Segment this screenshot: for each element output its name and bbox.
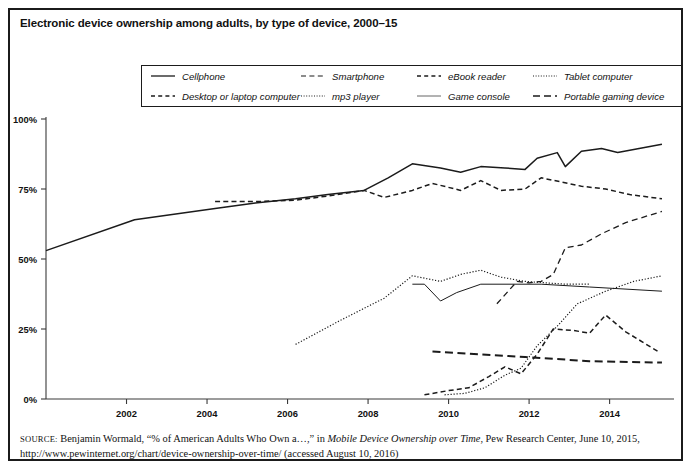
legend-label: Cellphone bbox=[182, 71, 225, 82]
legend-swatch-dash-med-icon bbox=[416, 71, 442, 81]
legend-row-2: Desktop or laptop computer mp3 player Ga… bbox=[142, 86, 681, 106]
legend-swatch-solid-icon bbox=[150, 71, 176, 81]
legend-label: Portable gaming device bbox=[564, 91, 664, 102]
legend-swatch-dash-med-icon bbox=[150, 91, 176, 101]
legend-item-tablet-computer: Tablet computer bbox=[532, 71, 632, 82]
legend-item-portable-gaming-device: Portable gaming device bbox=[532, 91, 664, 102]
legend-row-1: Cellphone Smartphone eBook reader Tablet… bbox=[142, 66, 681, 86]
source-url: http://www.pewinternet.org/chart/device-… bbox=[20, 448, 398, 459]
legend-label: Tablet computer bbox=[564, 71, 632, 82]
legend-swatch-thin-solid-icon bbox=[416, 91, 442, 101]
legend-item-smartphone: Smartphone bbox=[300, 71, 416, 82]
legend-label: mp3 player bbox=[332, 91, 379, 102]
figure-container: Electronic device ownership among adults… bbox=[0, 0, 691, 469]
legend-label: Game console bbox=[448, 91, 510, 102]
source-text-2: , Pew Research Center, June 10, 2015, bbox=[480, 433, 639, 444]
legend-swatch-dotted-icon bbox=[532, 71, 558, 81]
legend-item-game-console: Game console bbox=[416, 91, 532, 102]
source-title-italic: Mobile Device Ownership over Time bbox=[327, 433, 480, 444]
chart-legend: Cellphone Smartphone eBook reader Tablet… bbox=[141, 65, 682, 107]
source-text-1: Benjamin Wormald, “% of American Adults … bbox=[58, 433, 328, 444]
source-label: SOURCE: bbox=[20, 434, 58, 444]
legend-swatch-dotted-icon bbox=[300, 91, 326, 101]
legend-item-ebook-reader: eBook reader bbox=[416, 71, 532, 82]
page-title: Electronic device ownership among adults… bbox=[20, 17, 397, 29]
legend-item-mp3-player: mp3 player bbox=[300, 91, 416, 102]
legend-label: Desktop or laptop computer bbox=[182, 91, 300, 102]
legend-item-desktop-or-laptop-computer: Desktop or laptop computer bbox=[150, 91, 300, 102]
legend-item-cellphone: Cellphone bbox=[150, 71, 300, 82]
legend-swatch-dash-wide-icon bbox=[532, 91, 558, 101]
source-note: SOURCE: Benjamin Wormald, “% of American… bbox=[20, 432, 670, 460]
legend-swatch-dash-long-icon bbox=[300, 71, 326, 81]
legend-label: eBook reader bbox=[448, 71, 506, 82]
legend-label: Smartphone bbox=[332, 71, 384, 82]
